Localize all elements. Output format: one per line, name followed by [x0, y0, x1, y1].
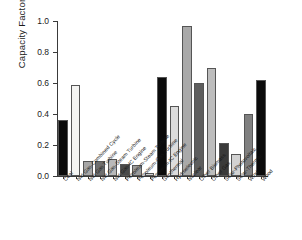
y-tick-label: 0.6	[37, 78, 49, 88]
y-tick: 0.6	[53, 83, 57, 84]
y-tick: 0.8	[53, 52, 57, 53]
y-tick: 0.4	[53, 114, 57, 115]
y-tick-label: 0.4	[37, 109, 49, 119]
bar	[71, 85, 81, 176]
y-tick-label: 1.0	[37, 16, 49, 26]
y-tick-label: 0.2	[37, 140, 49, 150]
y-tick: 0.0	[53, 176, 57, 177]
capacity-factor-bar-chart: Capacity Factor 0.00.20.40.60.81.0 CoalN…	[0, 0, 302, 240]
y-tick-label: 0.8	[37, 47, 49, 57]
y-tick-label: 0.0	[37, 171, 49, 181]
x-axis-labels: CoalNat Gas-Combined CycleNat Gas Turbin…	[57, 178, 287, 240]
bar	[58, 120, 68, 176]
y-tick: 0.2	[53, 145, 57, 146]
bar	[182, 26, 192, 176]
y-axis-title: Capacity Factor	[16, 0, 27, 99]
y-tick: 1.0	[53, 21, 57, 22]
